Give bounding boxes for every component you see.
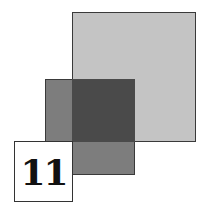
number-label-box: 11 [14,141,73,202]
overlap-region [72,79,135,142]
chapter-number: 11 [20,154,66,190]
